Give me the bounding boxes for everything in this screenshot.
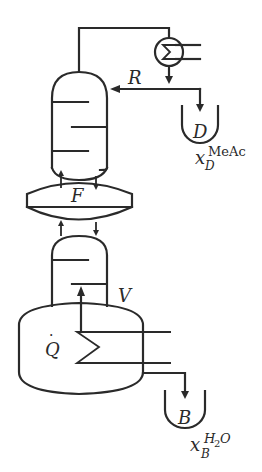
bottoms-label: B	[177, 407, 191, 428]
svg-text:MeAc: MeAc	[208, 144, 246, 159]
bottoms-composition: x B H 2 O	[190, 431, 231, 461]
reflux-line	[110, 85, 204, 112]
condenser-icon	[155, 38, 200, 84]
rectifying-section	[52, 72, 107, 180]
distillation-diagram: R D x D MeAc F V	[0, 0, 262, 472]
svg-text:x: x	[195, 147, 205, 168]
reflux-label: R	[127, 67, 142, 88]
vapor-riser	[77, 286, 85, 332]
svg-text:O: O	[220, 431, 231, 446]
svg-text:x: x	[190, 434, 200, 455]
distillate-label: D	[192, 121, 208, 142]
vapor-label: V	[118, 285, 133, 306]
svg-text:·: ·	[49, 327, 53, 343]
heat-duty-label: Q ·	[45, 327, 60, 360]
svg-text:D: D	[204, 159, 215, 173]
feed-label: F	[70, 185, 85, 206]
distillate-composition: x D MeAc	[195, 144, 246, 173]
reboiler	[19, 303, 171, 394]
svg-text:B: B	[200, 447, 210, 461]
lower-connectors	[58, 220, 99, 236]
